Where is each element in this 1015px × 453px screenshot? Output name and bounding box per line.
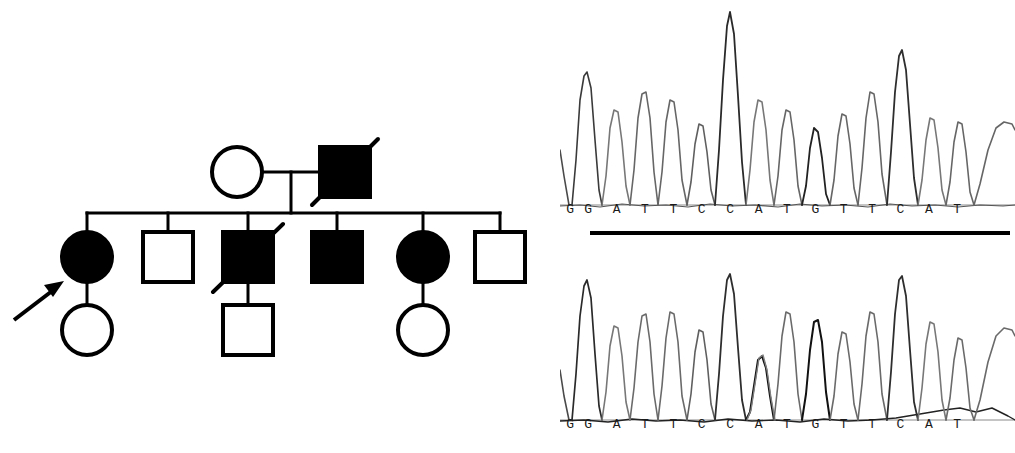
basecall-top-14: T (943, 203, 971, 217)
sequence-underbar (590, 231, 1010, 235)
pedigree-member-III-2-male-unaffected[interactable] (223, 305, 273, 355)
pedigree-member-II-2-male-unaffected[interactable] (143, 232, 193, 282)
basecall-top-7: A (744, 203, 772, 217)
basecall-bottom-2: A (602, 418, 630, 432)
basecall-bottom-12: C (886, 418, 914, 432)
pedigree-member-II-6-male-unaffected[interactable] (475, 232, 525, 282)
chromatogram-top-trace (560, 0, 1015, 215)
basecall-bottom-9: G (801, 418, 829, 432)
basecall-bottom-11: T (858, 418, 886, 432)
basecall-bottom-6: C (716, 418, 744, 432)
pedigree-member-I-1-female-unaffected[interactable] (212, 147, 262, 197)
basecall-row-bottom: G G A T T C C A T G T T C A T (560, 418, 1015, 432)
basecall-bottom-10: T (830, 418, 858, 432)
basecall-bottom-8: T (773, 418, 801, 432)
chromatogram-top-panel: G G A T T C C A T G T T C A T (560, 0, 1015, 240)
basecall-clipped-bottom: G (560, 418, 574, 432)
figure-root: G G A T T C C A T G T T C A T (0, 0, 1015, 453)
pedigree-member-III-1-female-unaffected[interactable] (62, 305, 112, 355)
proband-arrow-icon (14, 281, 64, 320)
pedigree-panel (0, 0, 560, 453)
pedigree-member-II-4-male-affected[interactable] (312, 232, 362, 282)
pedigree-member-III-3-female-unaffected[interactable] (398, 305, 448, 355)
basecall-clipped-top: G (560, 203, 574, 217)
basecall-top-10: T (830, 203, 858, 217)
basecall-row-top: G G A T T C C A T G T T C A T (560, 203, 1015, 217)
basecall-bottom-1: G (574, 418, 602, 432)
pedigree-member-II-1-female-affected-proband[interactable] (62, 232, 112, 282)
basecall-bottom-13: A (915, 418, 943, 432)
basecall-top-6: C (716, 203, 744, 217)
basecall-top-8: T (773, 203, 801, 217)
basecall-top-11: T (858, 203, 886, 217)
basecall-bottom-7: A (744, 418, 772, 432)
basecall-top-4: T (659, 203, 687, 217)
basecall-top-3: T (631, 203, 659, 217)
basecall-top-12: C (886, 203, 914, 217)
basecall-bottom-3: T (631, 418, 659, 432)
chromatogram-bottom-panel: G G A T T C C A T G T T C A T (560, 250, 1015, 453)
basecall-top-2: A (602, 203, 630, 217)
basecall-bottom-5: C (688, 418, 716, 432)
basecall-top-9: G (801, 203, 829, 217)
basecall-top-5: C (688, 203, 716, 217)
basecall-top-1: G (574, 203, 602, 217)
basecall-bottom-4: T (659, 418, 687, 432)
pedigree-svg (0, 0, 560, 453)
pedigree-member-II-5-female-affected[interactable] (398, 232, 448, 282)
basecall-bottom-14: T (943, 418, 971, 432)
basecall-top-13: A (915, 203, 943, 217)
chromatogram-panel: G G A T T C C A T G T T C A T (560, 0, 1015, 453)
chromatogram-bottom-trace (560, 250, 1015, 435)
